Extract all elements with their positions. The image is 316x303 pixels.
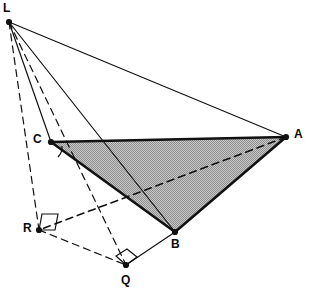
edge-L-B bbox=[9, 22, 175, 232]
vertex-dot-L bbox=[6, 19, 12, 25]
vertex-label-Q: Q bbox=[121, 274, 130, 286]
face-ABC bbox=[51, 137, 286, 232]
vertex-dot-Q bbox=[123, 262, 129, 268]
vertex-label-C: C bbox=[33, 133, 42, 145]
vertex-label-R: R bbox=[23, 222, 32, 234]
vertex-dot-A bbox=[283, 134, 289, 140]
markers-layer bbox=[39, 214, 137, 265]
edge-L-A bbox=[9, 22, 286, 137]
geometry-svg bbox=[0, 0, 316, 303]
vertex-label-B: B bbox=[171, 238, 180, 250]
vertex-dot-R bbox=[36, 227, 42, 233]
vertex-dot-C bbox=[48, 139, 54, 145]
vertex-dot-B bbox=[172, 229, 178, 235]
edge-L-R bbox=[9, 22, 39, 230]
vertex-label-L: L bbox=[3, 2, 10, 14]
edge-L-C bbox=[9, 22, 51, 142]
edge-R-Q bbox=[39, 230, 126, 265]
diagram-canvas: LCABRQ bbox=[0, 0, 316, 303]
faces-layer bbox=[51, 137, 286, 232]
vertex-label-A: A bbox=[294, 128, 303, 140]
right-angle-marker-R bbox=[39, 214, 58, 230]
